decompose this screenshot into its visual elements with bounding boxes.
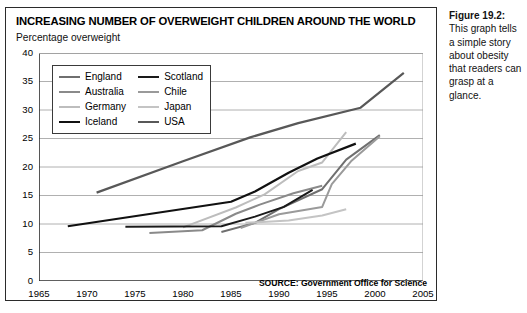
legend-item-chile[interactable]: Chile xyxy=(138,85,203,99)
y-tick-30: 30 xyxy=(13,104,33,115)
legend-swatch-japan xyxy=(138,106,159,108)
legend-label-scotland: Scotland xyxy=(164,70,203,84)
legend-item-germany[interactable]: Germany xyxy=(59,100,126,114)
legend-item-iceland[interactable]: Iceland xyxy=(59,115,126,129)
y-axis-caption: Percentage overweight xyxy=(16,32,120,43)
legend-swatch-iceland xyxy=(59,121,80,123)
legend-label-england: England xyxy=(85,70,122,84)
x-tick-1970: 1970 xyxy=(67,288,107,299)
x-tick-1975: 1975 xyxy=(115,288,155,299)
figure-caption-label: Figure 19.2: xyxy=(449,10,505,21)
chart-legend: England Scotland Australia Chile Germany… xyxy=(52,65,211,134)
legend-label-usa: USA xyxy=(164,115,185,129)
figure-caption: Figure 19.2: This graph tells a simple s… xyxy=(449,9,523,102)
legend-swatch-australia xyxy=(59,91,80,93)
legend-label-chile: Chile xyxy=(164,85,187,99)
legend-label-japan: Japan xyxy=(164,100,191,114)
chart-title: INCREASING NUMBER OF OVERWEIGHT CHILDREN… xyxy=(16,15,415,27)
legend-label-australia: Australia xyxy=(85,85,124,99)
legend-swatch-germany xyxy=(59,106,80,108)
legend-swatch-chile xyxy=(138,91,159,93)
legend-label-iceland: Iceland xyxy=(85,115,117,129)
legend-item-scotland[interactable]: Scotland xyxy=(138,70,203,84)
x-tick-2000: 2000 xyxy=(355,288,395,299)
x-tick-1985: 1985 xyxy=(211,288,251,299)
y-tick-15: 15 xyxy=(13,189,33,200)
legend-item-usa[interactable]: USA xyxy=(138,115,203,129)
chart-panel: INCREASING NUMBER OF OVERWEIGHT CHILDREN… xyxy=(5,7,437,301)
x-tick-1995: 1995 xyxy=(307,288,347,299)
y-tick-40: 40 xyxy=(13,47,33,58)
legend-label-germany: Germany xyxy=(85,100,126,114)
x-tick-1980: 1980 xyxy=(163,288,203,299)
legend-swatch-usa xyxy=(138,121,159,123)
series-line-england xyxy=(221,135,379,232)
source-note: SOURCE: Government Office for Science xyxy=(259,278,427,288)
figure-caption-text: This graph tells a simple story about ob… xyxy=(449,23,521,100)
y-tick-10: 10 xyxy=(13,218,33,229)
figure-page: INCREASING NUMBER OF OVERWEIGHT CHILDREN… xyxy=(0,0,527,313)
y-tick-20: 20 xyxy=(13,161,33,172)
x-tick-1990: 1990 xyxy=(259,288,299,299)
y-tick-5: 5 xyxy=(13,246,33,257)
y-tick-0: 0 xyxy=(13,275,33,286)
y-tick-25: 25 xyxy=(13,132,33,143)
series-line-iceland xyxy=(68,144,356,227)
legend-swatch-scotland xyxy=(138,76,159,78)
legend-item-japan[interactable]: Japan xyxy=(138,100,203,114)
legend-swatch-england xyxy=(59,76,80,78)
x-tick-1965: 1965 xyxy=(19,288,59,299)
y-tick-35: 35 xyxy=(13,75,33,86)
x-tick-2005: 2005 xyxy=(403,288,443,299)
legend-item-england[interactable]: England xyxy=(59,70,126,84)
legend-item-australia[interactable]: Australia xyxy=(59,85,126,99)
